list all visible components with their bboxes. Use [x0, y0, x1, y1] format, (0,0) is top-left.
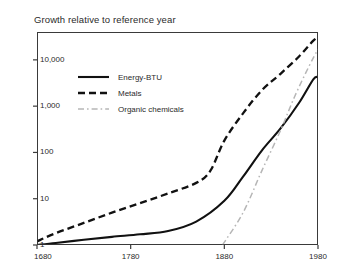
legend-item-energy-btu[interactable]: Energy-BTU — [78, 70, 184, 84]
y-tick-label: 100 — [40, 147, 53, 156]
legend-item-organic-chemicals[interactable]: Organic chemicals — [78, 102, 184, 116]
x-tick-label: 1880 — [204, 252, 244, 261]
y-tick-label: 1,000 — [40, 101, 60, 110]
legend-swatch-icon — [78, 73, 109, 81]
legend-swatch-icon — [78, 105, 109, 113]
y-tick-label: 10,000 — [40, 55, 64, 64]
legend-label: Energy-BTU — [118, 73, 162, 82]
chart-canvas — [0, 0, 341, 271]
legend-item-metals[interactable]: Metals — [78, 86, 184, 100]
series-group — [37, 38, 318, 245]
legend-label: Organic chemicals — [118, 105, 184, 114]
chart-figure: Growth relative to reference year 110100… — [0, 0, 341, 271]
chart-legend: Energy-BTUMetalsOrganic chemicals — [78, 70, 184, 118]
x-tick-label: 1980 — [298, 252, 338, 261]
legend-swatch-icon — [78, 89, 109, 97]
x-tick-label: 1780 — [111, 252, 151, 261]
y-tick-label: 1 — [40, 240, 44, 249]
series-line-organic-chemicals — [222, 49, 318, 245]
y-tick-label: 10 — [40, 194, 49, 203]
x-tick-label: 1680 — [34, 252, 74, 261]
legend-label: Metals — [118, 89, 142, 98]
